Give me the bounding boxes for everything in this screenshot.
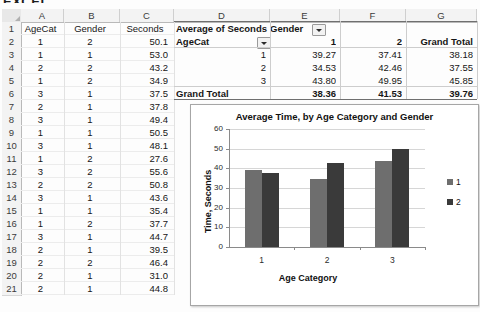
chart-bar-cat2-series1[interactable] [310, 179, 327, 247]
chart-bar-cat1-series2[interactable] [262, 173, 279, 247]
cell-seconds[interactable]: 34.9 [122, 74, 168, 87]
cell-gender[interactable]: 2 [66, 35, 114, 48]
cell-gender[interactable]: 1 [66, 191, 114, 204]
cell-gender[interactable]: 1 [66, 230, 114, 243]
cell-agecat[interactable]: 1 [23, 204, 58, 217]
row-header-19[interactable]: 19 [2, 256, 22, 270]
cell-gender[interactable]: 2 [66, 165, 114, 178]
row-header-8[interactable]: 8 [2, 113, 22, 127]
row-header-13[interactable]: 13 [2, 178, 22, 192]
cell-agecat[interactable]: 3 [23, 113, 58, 126]
cell-gender[interactable]: 2 [66, 256, 114, 269]
cell-agecat[interactable]: 3 [23, 191, 58, 204]
cell-gender[interactable]: 2 [66, 61, 114, 74]
cell-seconds[interactable]: 39.5 [122, 243, 168, 256]
row-header-7[interactable]: 7 [2, 100, 22, 114]
pivot-value-field-label[interactable]: Average of Seconds [176, 22, 268, 35]
chart-bar-cat3-series1[interactable] [375, 161, 392, 247]
row-header-17[interactable]: 17 [2, 230, 22, 244]
row-header-4[interactable]: 4 [2, 61, 22, 75]
row-header-16[interactable]: 16 [2, 217, 22, 231]
cell-seconds[interactable]: 44.7 [122, 230, 168, 243]
data-header-gender[interactable]: Gender [66, 22, 114, 35]
cell-seconds[interactable]: 46.4 [122, 256, 168, 269]
row-header-15[interactable]: 15 [2, 204, 22, 218]
cell-agecat[interactable]: 1 [23, 217, 58, 230]
cell-agecat[interactable]: 2 [23, 269, 58, 282]
row-header-3[interactable]: 3 [2, 48, 22, 62]
row-header-14[interactable]: 14 [2, 191, 22, 205]
cell-seconds[interactable]: 31.0 [122, 269, 168, 282]
cell-seconds[interactable]: 43.2 [122, 61, 168, 74]
row-header-18[interactable]: 18 [2, 243, 22, 257]
row-header-1[interactable]: 1 [2, 22, 22, 36]
cell-gender[interactable]: 1 [66, 204, 114, 217]
cell-agecat[interactable]: 2 [23, 243, 58, 256]
cell-gender[interactable]: 1 [66, 126, 114, 139]
row-header-6[interactable]: 6 [2, 87, 22, 101]
pivot-row-label[interactable]: 1 [176, 48, 266, 61]
cell-seconds[interactable]: 27.6 [122, 152, 168, 165]
row-header-12[interactable]: 12 [2, 165, 22, 179]
cell-seconds[interactable]: 50.1 [122, 35, 168, 48]
chart-object[interactable]: Average Time, by Age Category and Gender… [190, 104, 479, 306]
cell-agecat[interactable]: 3 [23, 165, 58, 178]
pivot-row-label[interactable]: 2 [176, 61, 266, 74]
cell-gender[interactable]: 1 [66, 243, 114, 256]
cell-gender[interactable]: 2 [66, 217, 114, 230]
cell-agecat[interactable]: 3 [23, 139, 58, 152]
legend-label-2[interactable]: 2 [456, 197, 461, 207]
pivot-cell-g1[interactable]: 39.27 [270, 48, 336, 61]
pivot-column-field-label[interactable]: Gender [270, 22, 310, 35]
cell-agecat[interactable]: 1 [23, 74, 58, 87]
column-header-c[interactable]: C [120, 9, 174, 22]
cell-seconds[interactable]: 43.6 [122, 191, 168, 204]
row-header-21[interactable]: 21 [2, 282, 22, 296]
column-header-b[interactable]: B [64, 9, 120, 22]
cell-seconds[interactable]: 37.5 [122, 87, 168, 100]
pivot-column-header-1[interactable]: 2 [340, 35, 402, 48]
pivot-column-header-2[interactable]: Grand Total [406, 35, 473, 48]
cell-agecat[interactable]: 1 [23, 152, 58, 165]
cell-agecat[interactable]: 3 [23, 87, 58, 100]
cell-agecat[interactable]: 1 [23, 35, 58, 48]
cell-gender[interactable]: 2 [66, 74, 114, 87]
cell-agecat[interactable]: 2 [23, 178, 58, 191]
select-all-corner[interactable] [2, 9, 22, 22]
cell-seconds[interactable]: 53.0 [122, 48, 168, 61]
cell-seconds[interactable]: 35.4 [122, 204, 168, 217]
data-header-seconds[interactable]: Seconds [122, 22, 168, 35]
cell-gender[interactable]: 2 [66, 178, 114, 191]
pivot-cell-g2[interactable]: 37.41 [340, 48, 402, 61]
cell-seconds[interactable]: 55.6 [122, 165, 168, 178]
cell-seconds[interactable]: 50.8 [122, 178, 168, 191]
cell-gender[interactable]: 1 [66, 113, 114, 126]
pivot-cell-g2[interactable]: 42.46 [340, 61, 402, 74]
column-header-a[interactable]: A [21, 9, 64, 22]
row-header-9[interactable]: 9 [2, 126, 22, 140]
cell-agecat[interactable]: 2 [23, 61, 58, 74]
cell-gender[interactable]: 1 [66, 87, 114, 100]
cell-gender[interactable]: 1 [66, 269, 114, 282]
chart-bar-cat2-series2[interactable] [327, 163, 344, 247]
data-header-agecat[interactable]: AgeCat [23, 22, 58, 35]
cell-seconds[interactable]: 48.1 [122, 139, 168, 152]
cell-gender[interactable]: 1 [66, 48, 114, 61]
cell-gender[interactable]: 2 [66, 152, 114, 165]
chart-bar-cat1-series1[interactable] [245, 170, 262, 247]
pivot-column-header-0[interactable]: 1 [270, 35, 336, 48]
cell-agecat[interactable]: 2 [23, 256, 58, 269]
cell-seconds[interactable]: 44.8 [122, 282, 168, 295]
pivot-cell-total[interactable]: 38.18 [406, 48, 473, 61]
cell-seconds[interactable]: 50.5 [122, 126, 168, 139]
chart-bar-cat3-series2[interactable] [392, 149, 409, 247]
row-header-2[interactable]: 2 [2, 35, 22, 49]
pivot-cell-total[interactable]: 37.55 [406, 61, 473, 74]
cell-agecat[interactable]: 2 [23, 282, 58, 295]
cell-agecat[interactable]: 1 [23, 48, 58, 61]
cell-gender[interactable]: 1 [66, 100, 114, 113]
row-header-5[interactable]: 5 [2, 74, 22, 88]
cell-agecat[interactable]: 3 [23, 230, 58, 243]
cell-gender[interactable]: 1 [66, 282, 114, 295]
cell-seconds[interactable]: 37.7 [122, 217, 168, 230]
